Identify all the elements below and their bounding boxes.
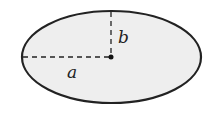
label-b: b: [118, 27, 129, 47]
diagram-canvas: b a: [0, 0, 209, 124]
label-a: a: [67, 62, 77, 82]
ellipse-diagram: b a: [0, 0, 209, 124]
center-point: [109, 55, 114, 60]
